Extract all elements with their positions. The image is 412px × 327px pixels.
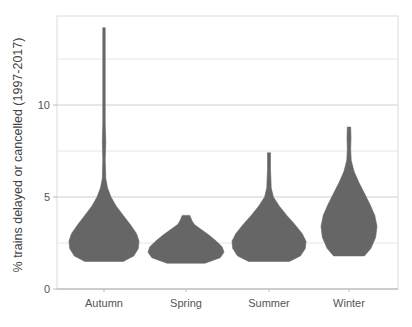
y-tick-label: 0 <box>44 283 50 295</box>
x-tick-label-autumn: Autumn <box>85 297 123 309</box>
violin-chart: 0510 AutumnSpringSummerWinter % trains d… <box>0 0 412 327</box>
x-tick-label-winter: Winter <box>333 297 365 309</box>
x-axis-ticks: AutumnSpringSummerWinter <box>85 289 365 309</box>
x-tick-label-spring: Spring <box>170 297 202 309</box>
y-tick-label: 5 <box>44 191 50 203</box>
y-axis-ticks: 0510 <box>38 99 57 295</box>
y-tick-label: 10 <box>38 99 50 111</box>
y-axis-title: % trains delayed or cancelled (1997-2017… <box>11 38 25 273</box>
x-tick-label-summer: Summer <box>248 297 290 309</box>
